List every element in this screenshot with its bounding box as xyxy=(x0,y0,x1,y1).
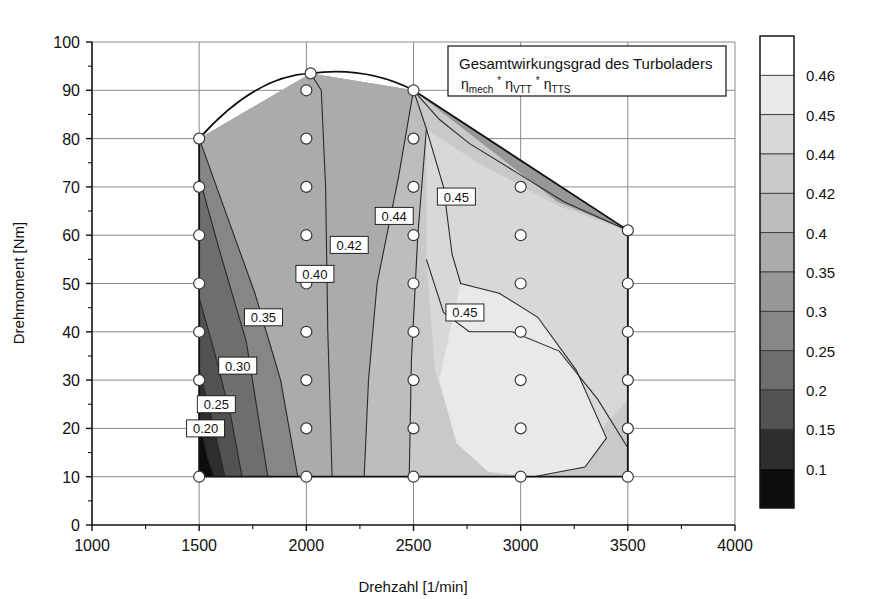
measurement-point xyxy=(515,230,526,241)
colorbar-label-0.25: 0.25 xyxy=(806,343,835,360)
y-tick-label-20: 20 xyxy=(62,420,80,437)
colorbar-band-9 xyxy=(760,390,794,429)
measurement-point xyxy=(408,278,419,289)
measurement-point xyxy=(515,375,526,386)
measurement-point xyxy=(194,471,205,482)
measurement-point xyxy=(301,375,312,386)
measurement-point xyxy=(301,181,312,192)
y-tick-label-10: 10 xyxy=(62,469,80,486)
y-tick-label-0: 0 xyxy=(71,517,80,534)
measurement-point xyxy=(622,326,633,337)
eta-1: η xyxy=(461,76,469,92)
y-tick-label-100: 100 xyxy=(53,34,80,51)
star-1: * xyxy=(497,75,501,86)
colorbar-band-1 xyxy=(760,75,794,114)
measurement-point xyxy=(408,133,419,144)
contour-label-text: 0.45 xyxy=(444,190,469,205)
colorbar-band-8 xyxy=(760,351,794,390)
colorbar-label-0.45: 0.45 xyxy=(806,107,835,124)
colorbar-label-0.4: 0.4 xyxy=(806,225,827,242)
measurement-point xyxy=(515,423,526,434)
efficiency-contour-chart: 0.200.250.300.350.400.420.440.450.45 100… xyxy=(0,0,873,599)
measurement-point xyxy=(194,375,205,386)
y-tick-label-80: 80 xyxy=(62,131,80,148)
contour-label-text: 0.44 xyxy=(382,209,407,224)
measurement-point xyxy=(408,326,419,337)
colorbar-label-0.2: 0.2 xyxy=(806,382,827,399)
y-tick-label-60: 60 xyxy=(62,227,80,244)
measurement-point xyxy=(622,278,633,289)
colorbar-label-0.44: 0.44 xyxy=(806,146,835,163)
measurement-point xyxy=(301,230,312,241)
contour-label-text: 0.35 xyxy=(251,310,276,325)
measurement-point xyxy=(622,375,633,386)
colorbar-band-3 xyxy=(760,154,794,193)
colorbar-label-0.35: 0.35 xyxy=(806,264,835,281)
x-tick-label-2500: 2500 xyxy=(396,537,432,554)
measurement-point xyxy=(622,225,633,236)
colorbar-band-6 xyxy=(760,272,794,311)
measurement-point xyxy=(622,471,633,482)
eta-2: η xyxy=(505,76,513,92)
measurement-point xyxy=(408,85,419,96)
contour-label-text: 0.20 xyxy=(193,421,218,436)
chart-page: 0.200.250.300.350.400.420.440.450.45 100… xyxy=(0,0,873,599)
colorbar-label-0.15: 0.15 xyxy=(806,421,835,438)
measurement-point xyxy=(515,278,526,289)
y-tick-label-50: 50 xyxy=(62,276,80,293)
contour-label-text: 0.30 xyxy=(225,359,250,374)
y-axis-title: Drehmoment [Nm] xyxy=(10,222,27,345)
measurement-point xyxy=(408,375,419,386)
colorbar-band-5 xyxy=(760,233,794,272)
colorbar-band-10 xyxy=(760,429,794,468)
y-tick-label-70: 70 xyxy=(62,179,80,196)
measurement-point xyxy=(515,326,526,337)
legend-title-text: Gesamtwirkungsgrad des Turboladers xyxy=(459,55,712,72)
colorbar-label-0.3: 0.3 xyxy=(806,303,827,320)
contour-label-text: 0.25 xyxy=(204,397,229,412)
measurement-point xyxy=(301,326,312,337)
measurement-point xyxy=(408,471,419,482)
measurement-point xyxy=(194,181,205,192)
star-2: * xyxy=(536,75,540,86)
eta-3: η xyxy=(544,76,552,92)
measurement-point xyxy=(194,133,205,144)
colorbar-band-11 xyxy=(760,469,794,508)
measurement-point xyxy=(408,230,419,241)
colorbar-band-4 xyxy=(760,193,794,232)
eta-2-sub: VTT xyxy=(513,84,532,95)
measurement-point xyxy=(301,423,312,434)
legend-annotation-box: Gesamtwirkungsgrad des Turboladers ηmech… xyxy=(448,46,726,96)
measurement-point xyxy=(515,181,526,192)
measurement-point xyxy=(301,85,312,96)
colorbar-band-2 xyxy=(760,115,794,154)
measurement-point xyxy=(194,230,205,241)
x-tick-label-2000: 2000 xyxy=(289,537,325,554)
x-tick-label-1000: 1000 xyxy=(74,537,110,554)
x-tick-label-1500: 1500 xyxy=(181,537,217,554)
colorbar-label-0.42: 0.42 xyxy=(806,185,835,202)
contour-label-text: 0.42 xyxy=(337,238,362,253)
x-tick-label-3500: 3500 xyxy=(610,537,646,554)
x-axis-title: Drehzahl [1/min] xyxy=(358,578,467,595)
y-tick-label-30: 30 xyxy=(62,372,80,389)
colorbar-label-0.1: 0.1 xyxy=(806,461,827,478)
x-tick-label-4000: 4000 xyxy=(717,537,753,554)
contour-label-text: 0.45 xyxy=(452,305,477,320)
measurement-point xyxy=(408,181,419,192)
measurement-point xyxy=(515,471,526,482)
colorbar-band-7 xyxy=(760,311,794,350)
measurement-point xyxy=(301,133,312,144)
measurement-point xyxy=(408,423,419,434)
measurement-point xyxy=(301,471,312,482)
contour-label-text: 0.40 xyxy=(302,267,327,282)
colorbar-band-0 xyxy=(760,36,794,75)
y-tick-label-90: 90 xyxy=(62,82,80,99)
measurement-point xyxy=(194,326,205,337)
eta-3-sub: TTS xyxy=(552,84,571,95)
measurement-point xyxy=(194,278,205,289)
measurement-point xyxy=(622,423,633,434)
measurement-point xyxy=(305,68,316,79)
y-tick-label-40: 40 xyxy=(62,324,80,341)
x-tick-label-3000: 3000 xyxy=(503,537,539,554)
